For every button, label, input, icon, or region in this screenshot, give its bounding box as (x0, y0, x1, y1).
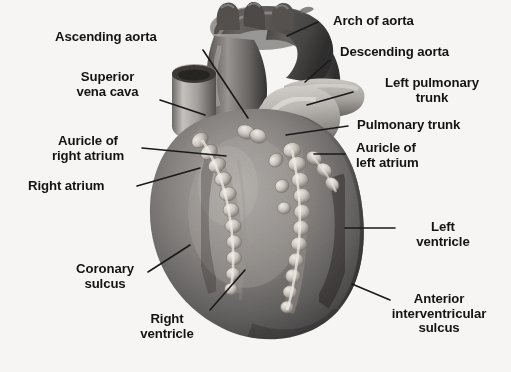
label-auricle-left-atrium: Auricle of left atrium (356, 141, 419, 170)
label-arch-of-aorta: Arch of aorta (333, 14, 414, 29)
label-ascending-aorta: Ascending aorta (55, 30, 157, 45)
label-right-atrium: Right atrium (28, 179, 104, 194)
heart-anatomy-figure: Ascending aorta Superior vena cava Auric… (0, 0, 511, 372)
label-superior-vena-cava: Superior vena cava (55, 70, 160, 99)
label-left-pulmonary-trunk: Left pulmonary trunk (358, 76, 506, 105)
label-coronary-sulcus: Coronary sulcus (60, 262, 150, 291)
label-right-ventricle: Right ventricle (125, 312, 209, 341)
label-left-ventricle: Left ventricle (400, 220, 486, 249)
label-auricle-right-atrium: Auricle of right atrium (32, 134, 144, 163)
heart-body-group (150, 2, 367, 339)
label-pulmonary-trunk: Pulmonary trunk (357, 118, 460, 133)
label-anterior-interventricular-sulcus: Anterior interventricular sulcus (367, 292, 511, 336)
label-descending-aorta: Descending aorta (340, 45, 449, 60)
